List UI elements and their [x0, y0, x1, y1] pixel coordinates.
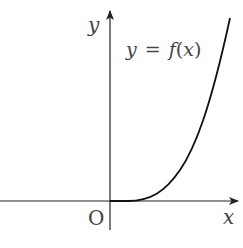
curve-label-lhs: y: [125, 38, 137, 60]
x-axis-label: x: [223, 205, 234, 229]
curve-label-close: ): [194, 38, 201, 60]
curve-label-eq: =: [145, 38, 161, 60]
curve-label-arg: x: [183, 38, 194, 60]
curve-label: y = f(x): [125, 38, 201, 60]
graph-canvas: y x O y = f(x): [0, 0, 243, 248]
origin-label: O: [88, 206, 104, 230]
y-axis-label: y: [87, 13, 100, 37]
curve-label-open: (: [176, 38, 183, 60]
